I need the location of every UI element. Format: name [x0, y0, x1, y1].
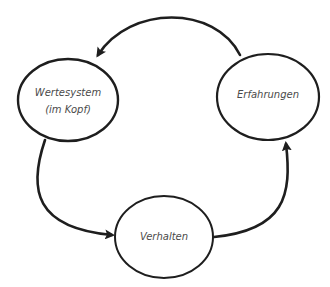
node-verhalten: Verhalten [115, 196, 213, 278]
node-wertesystem: Wertesystem (im Kopf) [18, 59, 118, 141]
node-wertesystem-label-line2: (im Kopf) [45, 104, 91, 115]
node-erfahrungen-label: Erfahrungen [237, 89, 299, 100]
arrow-verhalten-to-erfahrungen [214, 144, 288, 237]
node-erfahrungen: Erfahrungen [217, 54, 319, 140]
node-verhalten-label: Verhalten [140, 231, 188, 242]
arrow-wertesystem-to-verhalten [37, 140, 112, 235]
arrow-erfahrungen-to-wertesystem [98, 18, 240, 56]
node-wertesystem-label-line1: Wertesystem [35, 87, 102, 98]
cycle-diagram: Wertesystem (im Kopf) Erfahrungen Verhal… [0, 0, 330, 287]
